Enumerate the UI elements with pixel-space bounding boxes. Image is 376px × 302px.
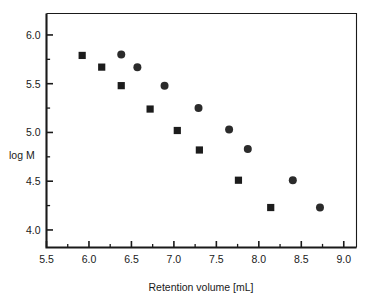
x-axis-tick-labels: 5.56.06.57.07.58.08.59.0 (39, 253, 351, 265)
y-axis-tick-labels: 4.04.55.05.56.0 (26, 29, 41, 236)
data-point-square (79, 52, 86, 59)
data-point-circle (161, 82, 169, 90)
x-tick-label: 8.5 (294, 253, 309, 265)
y-tick-label: 4.5 (26, 175, 41, 187)
data-point-square (267, 204, 274, 211)
data-point-circle (244, 145, 252, 153)
x-axis-title: Retention volume [mL] (148, 281, 253, 293)
x-tick-label: 9.0 (336, 253, 351, 265)
x-tick-label: 7.5 (209, 253, 224, 265)
scatter-plot: 5.56.06.57.07.58.08.59.0 4.04.55.05.56.0… (0, 0, 376, 302)
y-tick-label: 5.0 (26, 126, 41, 138)
x-tick-label: 8.0 (252, 253, 267, 265)
data-point-square (118, 82, 125, 89)
x-tick-label: 6.0 (82, 253, 97, 265)
data-point-square (235, 177, 242, 184)
data-point-square (174, 127, 181, 134)
plot-frame (47, 14, 357, 248)
data-point-square (196, 146, 203, 153)
data-point-circle (195, 104, 203, 112)
data-point-circle (289, 176, 297, 184)
data-point-square (98, 64, 105, 71)
x-tick-label: 5.5 (39, 253, 54, 265)
x-tick-label: 7.0 (167, 253, 182, 265)
data-point-circle (133, 63, 141, 71)
data-point-circle (117, 50, 125, 58)
y-tick-label: 6.0 (26, 29, 41, 41)
data-point-square (147, 105, 154, 112)
data-points (79, 50, 324, 211)
y-axis-title: log M (9, 149, 35, 161)
data-point-circle (316, 204, 324, 212)
y-tick-label: 5.5 (26, 78, 41, 90)
data-point-circle (225, 126, 233, 134)
x-tick-label: 6.5 (124, 253, 139, 265)
y-tick-label: 4.0 (26, 224, 41, 236)
chart-figure: 5.56.06.57.07.58.08.59.0 4.04.55.05.56.0… (0, 0, 376, 302)
